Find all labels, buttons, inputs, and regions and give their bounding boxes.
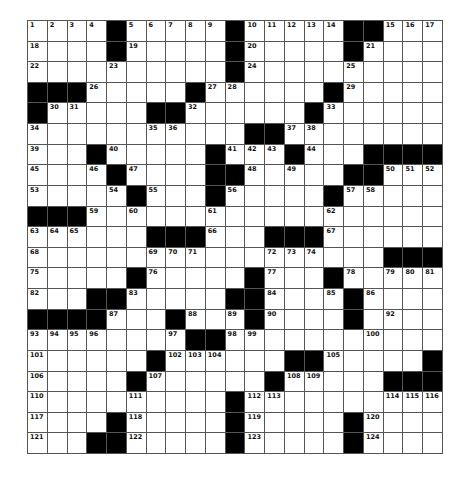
grid-cell[interactable] [305, 268, 324, 288]
grid-cell[interactable] [403, 330, 422, 350]
grid-cell[interactable]: 34 [28, 124, 47, 144]
grid-cell[interactable] [206, 310, 225, 330]
grid-cell[interactable] [384, 227, 403, 247]
grid-cell[interactable]: 81 [423, 268, 442, 288]
grid-cell[interactable]: 119 [245, 413, 264, 433]
grid-cell[interactable] [166, 83, 185, 103]
grid-cell[interactable]: 110 [28, 392, 47, 412]
grid-cell[interactable] [87, 227, 106, 247]
grid-cell[interactable] [364, 372, 383, 392]
grid-cell[interactable] [265, 186, 284, 206]
grid-cell[interactable] [68, 392, 87, 412]
grid-cell[interactable] [305, 310, 324, 330]
grid-cell[interactable] [384, 42, 403, 62]
grid-cell[interactable] [245, 248, 264, 268]
grid-cell[interactable]: 112 [245, 392, 264, 412]
grid-cell[interactable] [147, 330, 166, 350]
grid-cell[interactable] [147, 392, 166, 412]
grid-cell[interactable] [166, 62, 185, 82]
grid-cell[interactable]: 68 [28, 248, 47, 268]
grid-cell[interactable]: 103 [186, 351, 205, 371]
grid-cell[interactable]: 96 [87, 330, 106, 350]
grid-cell[interactable] [285, 392, 304, 412]
grid-cell[interactable] [344, 145, 363, 165]
grid-cell[interactable] [423, 186, 442, 206]
grid-cell[interactable] [245, 186, 264, 206]
grid-cell[interactable]: 114 [384, 392, 403, 412]
grid-cell[interactable]: 88 [186, 310, 205, 330]
grid-cell[interactable] [226, 351, 245, 371]
grid-cell[interactable]: 95 [68, 330, 87, 350]
grid-cell[interactable] [364, 124, 383, 144]
grid-cell[interactable]: 70 [166, 248, 185, 268]
grid-cell[interactable] [403, 42, 422, 62]
grid-cell[interactable] [186, 207, 205, 227]
grid-cell[interactable] [48, 124, 67, 144]
grid-cell[interactable] [403, 62, 422, 82]
grid-cell[interactable] [226, 227, 245, 247]
grid-cell[interactable]: 38 [305, 124, 324, 144]
grid-cell[interactable] [127, 330, 146, 350]
grid-cell[interactable]: 86 [364, 289, 383, 309]
grid-cell[interactable]: 116 [423, 392, 442, 412]
grid-cell[interactable] [68, 268, 87, 288]
grid-cell[interactable]: 69 [147, 248, 166, 268]
grid-cell[interactable] [305, 330, 324, 350]
grid-cell[interactable]: 45 [28, 165, 47, 185]
grid-cell[interactable] [87, 372, 106, 392]
grid-cell[interactable] [265, 207, 284, 227]
grid-cell[interactable] [403, 289, 422, 309]
grid-cell[interactable]: 11 [265, 21, 284, 41]
grid-cell[interactable] [166, 42, 185, 62]
grid-cell[interactable] [344, 103, 363, 123]
grid-cell[interactable]: 9 [206, 21, 225, 41]
grid-cell[interactable] [324, 392, 343, 412]
grid-cell[interactable]: 52 [423, 165, 442, 185]
grid-cell[interactable] [344, 248, 363, 268]
grid-cell[interactable] [324, 145, 343, 165]
grid-cell[interactable] [186, 413, 205, 433]
grid-cell[interactable]: 50 [384, 165, 403, 185]
grid-cell[interactable] [285, 433, 304, 453]
grid-cell[interactable]: 108 [285, 372, 304, 392]
grid-cell[interactable] [48, 392, 67, 412]
grid-cell[interactable] [265, 83, 284, 103]
grid-cell[interactable]: 115 [403, 392, 422, 412]
grid-cell[interactable]: 31 [68, 103, 87, 123]
grid-cell[interactable] [186, 124, 205, 144]
grid-cell[interactable] [48, 165, 67, 185]
grid-cell[interactable]: 72 [265, 248, 284, 268]
grid-cell[interactable] [107, 83, 126, 103]
grid-cell[interactable] [206, 62, 225, 82]
grid-cell[interactable] [403, 124, 422, 144]
grid-cell[interactable] [166, 372, 185, 392]
grid-cell[interactable] [305, 207, 324, 227]
grid-cell[interactable] [68, 351, 87, 371]
grid-cell[interactable] [324, 62, 343, 82]
grid-cell[interactable]: 23 [107, 62, 126, 82]
grid-cell[interactable] [107, 248, 126, 268]
grid-cell[interactable] [285, 330, 304, 350]
grid-cell[interactable] [384, 62, 403, 82]
grid-cell[interactable] [206, 392, 225, 412]
grid-cell[interactable]: 76 [147, 268, 166, 288]
grid-cell[interactable] [423, 413, 442, 433]
grid-cell[interactable] [166, 186, 185, 206]
grid-cell[interactable] [344, 372, 363, 392]
grid-cell[interactable] [324, 165, 343, 185]
grid-cell[interactable]: 55 [147, 186, 166, 206]
grid-cell[interactable]: 63 [28, 227, 47, 247]
grid-cell[interactable] [127, 83, 146, 103]
grid-cell[interactable] [384, 413, 403, 433]
grid-cell[interactable] [384, 124, 403, 144]
grid-cell[interactable] [285, 268, 304, 288]
grid-cell[interactable]: 60 [127, 207, 146, 227]
grid-cell[interactable] [107, 268, 126, 288]
grid-cell[interactable] [68, 433, 87, 453]
grid-cell[interactable] [147, 289, 166, 309]
grid-cell[interactable] [127, 145, 146, 165]
grid-cell[interactable] [147, 83, 166, 103]
grid-cell[interactable]: 84 [265, 289, 284, 309]
grid-cell[interactable] [68, 372, 87, 392]
grid-cell[interactable] [206, 124, 225, 144]
